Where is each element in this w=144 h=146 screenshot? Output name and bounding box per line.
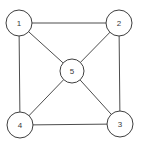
node-label-3: 3 [118, 120, 123, 129]
node-label-1: 1 [17, 19, 22, 28]
graph-node-2: 2 [106, 10, 132, 36]
graph-node-1: 1 [6, 10, 32, 36]
node-label-5: 5 [70, 67, 75, 76]
graph-edge-3-4 [20, 124, 120, 125]
graph-canvas: 12345 [0, 0, 144, 146]
node-label-4: 4 [18, 121, 23, 130]
graph-diagram: 12345 [0, 0, 144, 146]
graph-edge-4-1 [19, 23, 20, 125]
node-label-2: 2 [117, 19, 122, 28]
graph-node-5: 5 [60, 59, 84, 83]
graph-edge-2-3 [119, 23, 120, 124]
graph-node-3: 3 [107, 111, 133, 137]
graph-node-4: 4 [7, 112, 33, 138]
